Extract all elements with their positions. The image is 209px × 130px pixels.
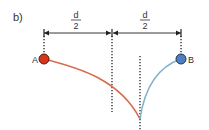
svg-text:B: B — [188, 55, 194, 65]
curve-a — [44, 59, 140, 119]
svg-text:A: A — [32, 55, 38, 65]
svg-text:2: 2 — [142, 21, 147, 31]
curve-b — [140, 59, 181, 119]
svg-text:d: d — [142, 10, 147, 20]
dimension-label-right: d 2 — [140, 10, 150, 31]
svg-text:d: d — [73, 10, 78, 20]
dimension-label-left: d 2 — [71, 10, 81, 31]
point-a: A — [32, 54, 49, 65]
dotted-guides — [44, 36, 181, 130]
svg-text:2: 2 — [73, 21, 78, 31]
trajectory-diagram: b) d 2 d 2 A B — [0, 0, 209, 130]
point-b: B — [176, 54, 194, 65]
dimension-arrows — [44, 29, 181, 37]
panel-label: b) — [13, 11, 23, 23]
